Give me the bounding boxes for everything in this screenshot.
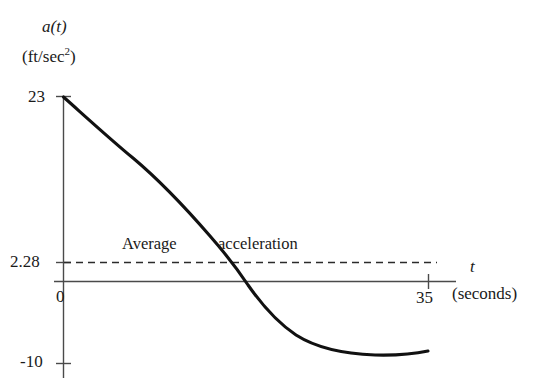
average-acceleration-label-part2: acceleration [218,236,298,253]
acceleration-graph-figure: a(t) (ft/sec2) 23 2.28 0 -10 35 t (secon… [0,0,548,390]
y-axis-units-suffix: ) [70,47,76,66]
average-acceleration-label-part1: Average [122,236,177,253]
y-tick-label-neg-10: -10 [20,353,43,370]
x-tick-label-35: 35 [416,289,433,306]
x-axis-units: (seconds) [452,285,517,302]
x-axis-title: t [470,258,475,275]
y-axis-title: a(t) [42,18,67,35]
y-tick-label-2-28: 2.28 [10,253,40,270]
chart-canvas [0,0,548,390]
y-tick-label-0: 0 [56,288,65,305]
y-axis-units-prefix: (ft/sec [22,47,64,66]
acceleration-curve [64,97,429,355]
y-axis-units: (ft/sec2) [22,46,76,65]
y-tick-label-23: 23 [28,88,45,105]
